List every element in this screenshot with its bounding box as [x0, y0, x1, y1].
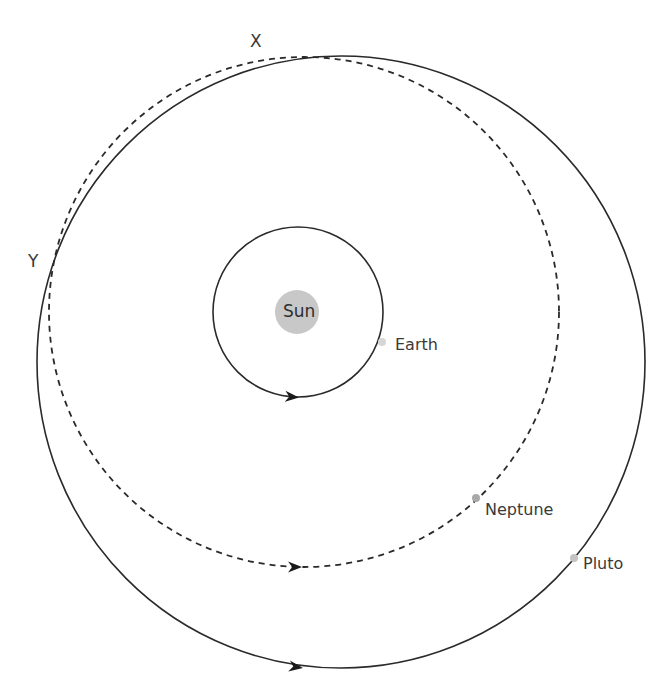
earth-marker [378, 338, 386, 346]
point-y-label: Y [28, 253, 38, 270]
pluto-marker [570, 554, 578, 562]
orbit-diagram [0, 0, 665, 690]
point-x-label: X [250, 33, 262, 50]
pluto-orbit-arrow-icon [283, 665, 296, 667]
pluto-label: Pluto [583, 556, 623, 572]
neptune-marker [472, 494, 480, 502]
sun-label: Sun [283, 303, 315, 320]
neptune-label: Neptune [485, 502, 553, 518]
pluto-orbit [37, 56, 645, 668]
earth-label: Earth [395, 337, 438, 353]
